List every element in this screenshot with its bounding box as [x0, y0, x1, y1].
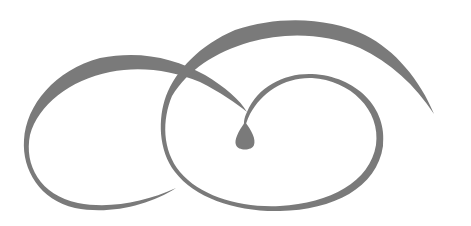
left-loop-shape: [24, 55, 247, 210]
swirl-ornament-icon: [0, 0, 471, 226]
teardrop-shape: [235, 122, 254, 150]
inner-loop-shape: [161, 74, 384, 211]
flourish-graphic: [0, 0, 471, 226]
top-arc-shape: [166, 20, 434, 114]
